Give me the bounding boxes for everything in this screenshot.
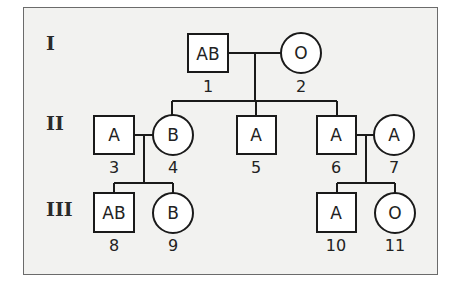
individual-4-female: B 4 xyxy=(153,115,193,177)
blood-type: A xyxy=(330,125,342,145)
individual-number: 11 xyxy=(385,236,405,255)
blood-type: AB xyxy=(196,44,219,64)
individual-number: 10 xyxy=(326,236,346,255)
individual-number: 8 xyxy=(109,236,119,255)
individual-7-female: A 7 xyxy=(374,115,414,177)
individual-5-male: A 5 xyxy=(237,116,276,177)
blood-type: A xyxy=(250,125,262,145)
individual-2-female: O 2 xyxy=(281,33,321,96)
pedigree-chart: I II III AB 1 O 2 xyxy=(0,0,454,296)
individual-number: 7 xyxy=(389,158,399,177)
individual-number: 5 xyxy=(251,158,261,177)
blood-type: O xyxy=(388,203,401,223)
individual-10-male: A 10 xyxy=(317,193,356,255)
individual-9-female: B 9 xyxy=(153,193,193,255)
blood-type: O xyxy=(294,43,307,63)
individual-11-female: O 11 xyxy=(375,193,415,255)
blood-type: B xyxy=(167,125,179,145)
individual-number: 6 xyxy=(331,158,341,177)
individual-6-male: A 6 xyxy=(317,116,356,177)
blood-type: B xyxy=(167,203,179,223)
individual-1-male: AB 1 xyxy=(188,34,228,96)
individual-3-male: A 3 xyxy=(94,116,134,177)
generation-label-ii: II xyxy=(46,112,64,134)
blood-type: A xyxy=(388,125,400,145)
individual-number: 3 xyxy=(109,158,119,177)
individual-number: 4 xyxy=(168,158,178,177)
blood-type: AB xyxy=(102,203,125,223)
individual-number: 9 xyxy=(168,236,178,255)
blood-type: A xyxy=(108,125,120,145)
generation-label-iii: III xyxy=(46,198,73,220)
individual-number: 1 xyxy=(203,77,213,96)
individual-8-male: AB 8 xyxy=(94,193,134,255)
generation-label-i: I xyxy=(46,32,55,54)
individual-number: 2 xyxy=(296,77,306,96)
blood-type: A xyxy=(330,203,342,223)
